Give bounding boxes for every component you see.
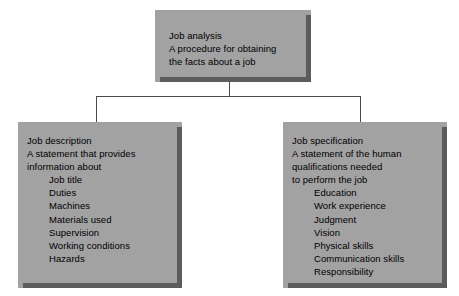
- node-job-analysis-text: Job analysis A procedure for obtaining t…: [169, 29, 276, 68]
- list-item: Judgment: [292, 213, 404, 226]
- list-item: Physical skills: [292, 239, 404, 252]
- connector-root-stem: [229, 82, 230, 97]
- node-job-specification: Job specification A statement of the hum…: [283, 122, 447, 288]
- connector-horizontal-bar: [96, 96, 361, 97]
- connector-drop-left: [96, 96, 97, 123]
- node-description-line: A procedure for obtaining: [169, 42, 276, 55]
- list-item: Responsibility: [292, 265, 404, 278]
- node-heading: Job description: [27, 134, 135, 147]
- list-item: Hazards: [27, 252, 135, 265]
- node-job-description: Job description A statement that provide…: [18, 122, 182, 288]
- list-item: Materials used: [27, 213, 135, 226]
- list-item: Vision: [292, 226, 404, 239]
- list-item: Work experience: [292, 199, 404, 212]
- node-description-line: to perform the job: [292, 173, 404, 186]
- node-heading: Job specification: [292, 134, 404, 147]
- list-item: Supervision: [27, 226, 135, 239]
- node-description-line: qualifications needed: [292, 160, 404, 173]
- node-description-line: A statement that provides: [27, 147, 135, 160]
- job-analysis-diagram: Job analysis A procedure for obtaining t…: [0, 0, 459, 296]
- list-item: Working conditions: [27, 239, 135, 252]
- connector-drop-right: [360, 96, 361, 123]
- node-description-line: information about: [27, 160, 135, 173]
- node-description-line: A statement of the human: [292, 147, 404, 160]
- node-description-line: the facts about a job: [169, 55, 276, 68]
- node-job-specification-text: Job specification A statement of the hum…: [292, 134, 404, 278]
- list-item: Education: [292, 186, 404, 199]
- list-item: Job title: [27, 173, 135, 186]
- node-job-analysis: Job analysis A procedure for obtaining t…: [155, 10, 311, 82]
- list-item: Duties: [27, 186, 135, 199]
- node-job-description-text: Job description A statement that provide…: [27, 134, 135, 265]
- node-heading: Job analysis: [169, 29, 276, 42]
- list-item: Machines: [27, 199, 135, 212]
- list-item: Communication skills: [292, 252, 404, 265]
